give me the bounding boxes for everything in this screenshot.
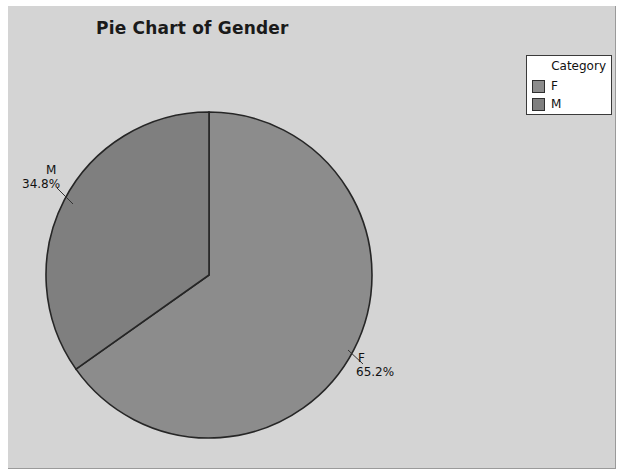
slice-label-m: M 34.8% [22, 163, 60, 191]
slice-label-f-category: F [358, 351, 394, 365]
legend-swatch-m [532, 98, 545, 111]
legend-label-m: M [551, 98, 561, 111]
legend-title: Category [551, 59, 606, 73]
slice-label-f-percent: 65.2% [356, 365, 394, 379]
legend-item-f[interactable]: F [532, 78, 558, 94]
pie-chart-figure: Pie Chart of Gender M 34.8% F 65.2% Cate… [0, 0, 618, 471]
legend-label-f: F [551, 80, 558, 93]
slice-label-m-category: M [46, 163, 60, 177]
slice-label-m-percent: 34.8% [22, 177, 60, 191]
legend-swatch-f [532, 80, 545, 93]
legend-item-m[interactable]: M [532, 96, 561, 112]
slice-label-f: F 65.2% [356, 351, 394, 379]
legend: Category F M [526, 55, 612, 115]
